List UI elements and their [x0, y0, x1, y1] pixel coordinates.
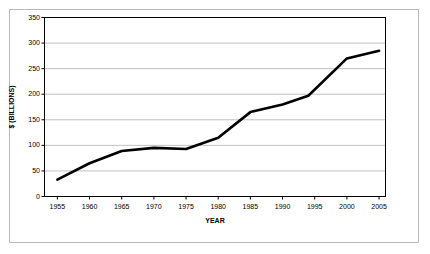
x-axis-tick-label: 1985: [235, 203, 265, 211]
x-axis-tick-label: 1990: [268, 203, 298, 211]
y-axis-tick-label: 0: [14, 193, 40, 201]
x-axis-tick-label: 1970: [139, 203, 169, 211]
x-axis-title: YEAR: [175, 217, 255, 225]
x-axis-tick-label: 1965: [107, 203, 137, 211]
y-axis-tick-label: 200: [14, 90, 40, 98]
x-axis-tick-label: 1980: [203, 203, 233, 211]
x-axis-tick-label: 2005: [364, 203, 394, 211]
x-axis-tick-label: 1960: [75, 203, 105, 211]
x-axis-tick-label: 1995: [300, 203, 330, 211]
x-axis-tick-label: 2000: [332, 203, 362, 211]
y-axis-tick-label: 300: [14, 39, 40, 47]
y-axis-tick-label: 100: [14, 141, 40, 149]
x-axis-tick-label: 1955: [42, 203, 72, 211]
x-axis-tick-label: 1975: [171, 203, 201, 211]
y-axis-title: $ (BILLIONS): [8, 57, 16, 157]
y-axis-tick-label: 150: [14, 116, 40, 124]
y-axis-tick-label: 50: [14, 167, 40, 175]
plot-background: [45, 18, 386, 197]
y-axis-tick-label: 250: [14, 65, 40, 73]
y-axis-tick-label: 350: [14, 14, 40, 22]
